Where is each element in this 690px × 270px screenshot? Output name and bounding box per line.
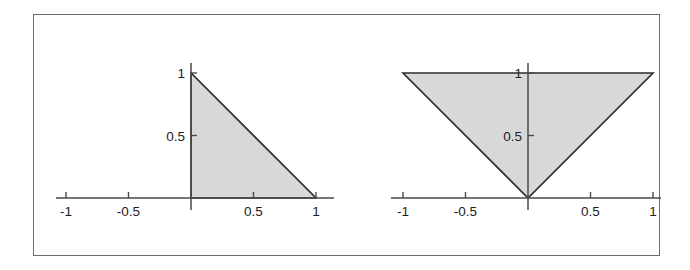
- figure-root: -1 -0.5 0.5 1 0.5 1 -1 -: [0, 0, 690, 270]
- right-y-label-one: 1: [514, 66, 522, 81]
- figure-frame: -1 -0.5 0.5 1 0.5 1 -1 -: [33, 14, 660, 256]
- right-x-label-pos-one: 1: [649, 204, 657, 219]
- right-plot: -1 -0.5 0.5 1 0.5 1: [34, 15, 661, 257]
- right-x-label-pos-half: 0.5: [581, 204, 600, 219]
- right-x-label-neg-half: -0.5: [454, 204, 477, 219]
- right-y-label-half: 0.5: [503, 129, 522, 144]
- right-x-label-neg-one: -1: [397, 204, 409, 219]
